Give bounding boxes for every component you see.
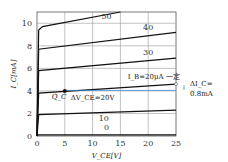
svg-text:8: 8 (27, 42, 32, 51)
svg-text:0: 0 (104, 123, 109, 132)
transistor-output-characteristics-chart: 010304050 05101520250246810V_CE[V]I_C[mA… (0, 0, 228, 162)
svg-text:0: 0 (34, 139, 39, 148)
svg-text:V_CE[V]: V_CE[V] (92, 152, 122, 160)
svg-text:10: 10 (99, 114, 109, 123)
svg-text:6: 6 (27, 64, 32, 73)
svg-text:25: 25 (171, 139, 181, 148)
svg-text:40: 40 (143, 23, 153, 32)
svg-text:10: 10 (22, 19, 32, 28)
svg-text:ΔV_CE=20V: ΔV_CE=20V (71, 94, 116, 102)
svg-text:I_B=20μA 一定: I_B=20μA 一定 (128, 72, 180, 81)
svg-text:50: 50 (101, 12, 111, 21)
svg-text:Q_C: Q_C (52, 93, 67, 101)
svg-text:4: 4 (27, 87, 32, 96)
svg-text:ΔI_C=: ΔI_C= (190, 80, 213, 88)
svg-text:2: 2 (27, 109, 32, 118)
svg-text:5: 5 (62, 139, 67, 148)
svg-text:15: 15 (115, 139, 125, 148)
svg-text:20: 20 (143, 139, 153, 148)
svg-text:I_C[mA]: I_C[mA] (10, 59, 18, 89)
svg-text:0.8mA: 0.8mA (190, 90, 214, 98)
svg-text:0: 0 (27, 132, 32, 141)
svg-text:10: 10 (88, 139, 98, 148)
svg-text:30: 30 (143, 48, 153, 57)
